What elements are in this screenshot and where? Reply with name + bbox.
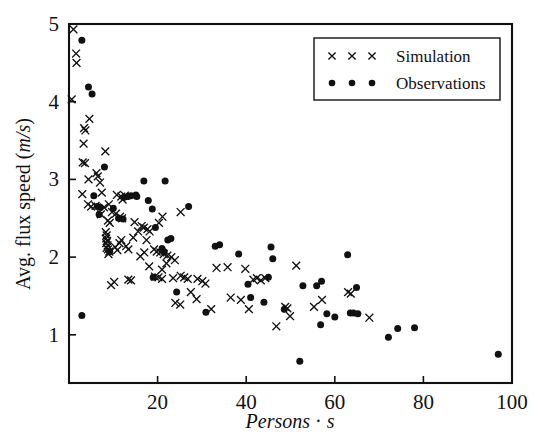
data-point-observation xyxy=(247,294,254,301)
data-point-simulation xyxy=(202,280,210,288)
data-point-simulation xyxy=(227,294,235,302)
data-point-simulation xyxy=(106,219,114,227)
data-point-simulation xyxy=(73,59,81,67)
data-point-observation xyxy=(202,309,209,316)
data-point-observation xyxy=(145,197,152,204)
y-axis-ticks: 12345 xyxy=(49,12,77,347)
data-point-simulation xyxy=(365,314,373,322)
data-point-simulation xyxy=(113,246,121,254)
data-point-observation xyxy=(281,306,288,313)
data-point-simulation xyxy=(224,263,232,271)
data-point-observation xyxy=(152,224,159,231)
data-point-observation xyxy=(150,274,157,281)
x-tick-label: 20 xyxy=(147,390,168,414)
data-point-observation xyxy=(235,251,242,258)
data-point-simulation xyxy=(237,296,245,304)
data-point-simulation xyxy=(129,234,137,242)
data-point-simulation xyxy=(169,274,177,282)
x-tick-label: 100 xyxy=(496,390,528,414)
data-point-observation xyxy=(317,321,324,328)
data-point-observation xyxy=(265,274,272,281)
data-point-observation xyxy=(329,80,336,87)
legend-label: Observations xyxy=(396,74,486,93)
data-point-observation xyxy=(349,80,356,87)
data-point-observation xyxy=(173,289,180,296)
data-point-observation xyxy=(167,235,174,242)
data-point-observation xyxy=(411,324,418,331)
data-point-simulation xyxy=(145,263,153,271)
data-point-observation xyxy=(161,248,168,255)
data-point-observation xyxy=(353,284,360,291)
data-point-simulation xyxy=(80,140,88,148)
data-point-observation xyxy=(96,211,103,218)
data-point-observation xyxy=(354,310,361,317)
data-point-simulation xyxy=(193,295,201,303)
data-point-simulation xyxy=(117,236,125,244)
data-point-observation xyxy=(244,281,251,288)
data-point-observation xyxy=(89,90,96,97)
data-point-observation xyxy=(149,205,156,212)
data-point-observation xyxy=(344,251,351,258)
data-point-observation xyxy=(90,192,97,199)
data-point-simulation xyxy=(163,259,171,267)
y-tick-label: 5 xyxy=(49,12,60,36)
data-point-observation xyxy=(318,278,325,285)
data-point-simulation xyxy=(347,290,355,298)
data-point-simulation xyxy=(140,249,148,257)
data-point-observation xyxy=(78,312,85,319)
data-point-simulation xyxy=(85,176,93,184)
data-point-observation xyxy=(185,203,192,210)
data-point-simulation xyxy=(98,189,106,197)
data-point-simulation xyxy=(310,303,318,311)
data-point-observation xyxy=(216,241,223,248)
data-point-simulation xyxy=(272,322,280,330)
data-point-simulation xyxy=(110,278,118,286)
data-point-simulation xyxy=(177,208,185,216)
data-point-observation xyxy=(296,358,303,365)
data-point-observation xyxy=(140,177,147,184)
data-point-observation xyxy=(106,248,113,255)
data-point-observation xyxy=(394,325,401,332)
data-point-observation xyxy=(78,37,85,44)
data-point-simulation xyxy=(245,305,253,313)
data-point-simulation xyxy=(241,265,249,273)
data-point-simulation xyxy=(213,264,221,272)
data-point-simulation xyxy=(318,296,326,304)
data-point-observation xyxy=(110,205,117,212)
data-point-simulation xyxy=(187,288,195,296)
data-point-observation xyxy=(101,163,108,170)
y-tick-label: 3 xyxy=(49,167,60,191)
data-point-simulation xyxy=(101,148,109,156)
data-point-simulation xyxy=(96,179,104,187)
x-axis-ticks: 20406080100 xyxy=(147,376,528,414)
y-tick-label: 1 xyxy=(49,323,60,347)
y-tick-label: 4 xyxy=(49,90,60,114)
data-point-observation xyxy=(133,193,140,200)
chart-figure: 20406080100 12345 Persons · s Avg. flux … xyxy=(0,0,550,447)
data-point-observation xyxy=(299,282,306,289)
data-point-observation xyxy=(369,80,376,87)
data-point-observation xyxy=(268,244,275,251)
data-point-simulation xyxy=(344,288,352,296)
chart-legend[interactable]: SimulationObservations xyxy=(314,38,500,100)
data-point-observation xyxy=(260,299,267,306)
data-point-observation xyxy=(162,177,169,184)
data-point-observation xyxy=(269,255,276,262)
data-point-simulation xyxy=(124,245,132,253)
data-point-simulation xyxy=(171,256,179,264)
data-point-simulation xyxy=(143,236,151,244)
scatter-plot: 20406080100 12345 Persons · s Avg. flux … xyxy=(0,0,550,447)
data-point-simulation xyxy=(292,262,300,270)
data-point-simulation xyxy=(70,26,78,34)
data-point-observation xyxy=(85,83,92,90)
data-point-observation xyxy=(120,216,127,223)
data-point-observation xyxy=(323,310,330,317)
data-point-simulation xyxy=(131,218,139,226)
data-point-simulation xyxy=(85,115,93,123)
data-point-simulation xyxy=(158,266,166,274)
y-axis-title: Avg. flux speed (m/s) xyxy=(12,118,35,290)
x-tick-label: 80 xyxy=(413,390,434,414)
data-point-simulation xyxy=(78,190,86,198)
data-point-simulation xyxy=(72,50,80,58)
data-point-observation xyxy=(331,313,338,320)
